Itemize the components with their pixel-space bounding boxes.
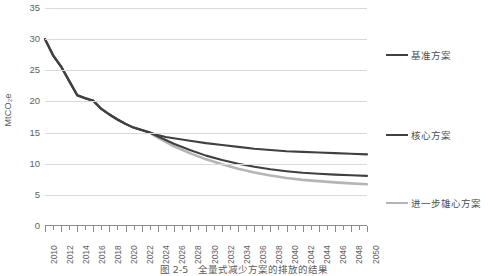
x-tick-mark bbox=[295, 226, 296, 230]
x-tick-mark bbox=[343, 226, 344, 230]
x-tick-mark bbox=[126, 226, 127, 232]
legend-label: 进一步雄心方案 bbox=[411, 196, 481, 210]
x-tick-mark bbox=[158, 226, 159, 232]
x-tick-mark bbox=[327, 226, 328, 230]
figure-caption: 图 2-5 全量式减少方案的排放的结果 bbox=[0, 262, 488, 276]
x-tick-mark bbox=[319, 226, 320, 232]
plot-area bbox=[45, 8, 367, 226]
legend-swatch-icon bbox=[386, 134, 408, 137]
chart-legend: 基准方案核心方案进一步雄心方案 bbox=[386, 0, 488, 230]
x-tick-mark bbox=[270, 226, 271, 232]
x-tick-mark bbox=[134, 226, 135, 230]
y-tick-label: 25 bbox=[14, 66, 40, 76]
x-tick-mark bbox=[246, 226, 247, 230]
x-tick-mark bbox=[367, 226, 368, 232]
x-tick-mark bbox=[93, 226, 94, 232]
x-tick-mark bbox=[61, 226, 62, 232]
x-tick-mark bbox=[190, 226, 191, 232]
series-line bbox=[45, 39, 367, 184]
x-tick-mark bbox=[238, 226, 239, 232]
x-tick-mark bbox=[254, 226, 255, 232]
legend-label: 核心方案 bbox=[411, 128, 451, 142]
y-tick-label: 30 bbox=[14, 34, 40, 44]
x-tick-mark bbox=[77, 226, 78, 232]
y-tick-label: 0 bbox=[14, 221, 40, 231]
legend-item[interactable]: 基准方案 bbox=[386, 48, 451, 62]
gridline bbox=[45, 101, 367, 102]
x-tick-mark bbox=[303, 226, 304, 232]
x-axis-tick-marks bbox=[45, 226, 367, 233]
x-tick-mark bbox=[222, 226, 223, 232]
x-tick-mark bbox=[287, 226, 288, 232]
series-line bbox=[45, 39, 367, 154]
gridline bbox=[45, 8, 367, 9]
x-tick-mark bbox=[45, 226, 46, 232]
x-tick-mark bbox=[311, 226, 312, 230]
y-tick-label: 5 bbox=[14, 190, 40, 200]
x-tick-mark bbox=[230, 226, 231, 230]
y-tick-label: 10 bbox=[14, 159, 40, 169]
legend-label: 基准方案 bbox=[411, 48, 451, 62]
series-lines bbox=[45, 8, 367, 226]
x-tick-mark bbox=[150, 226, 151, 230]
x-tick-mark bbox=[351, 226, 352, 232]
x-tick-mark bbox=[278, 226, 279, 230]
x-tick-mark bbox=[101, 226, 102, 230]
y-tick-label: 35 bbox=[14, 3, 40, 13]
x-tick-mark bbox=[214, 226, 215, 230]
x-tick-mark bbox=[335, 226, 336, 232]
x-tick-mark bbox=[109, 226, 110, 232]
gridline bbox=[45, 39, 367, 40]
y-axis-tick-labels: 05101520253035 bbox=[12, 0, 40, 272]
x-tick-mark bbox=[174, 226, 175, 232]
x-tick-mark bbox=[198, 226, 199, 230]
x-tick-mark bbox=[206, 226, 207, 232]
x-tick-mark bbox=[85, 226, 86, 230]
y-tick-label: 15 bbox=[14, 128, 40, 138]
legend-swatch-icon bbox=[386, 54, 408, 57]
x-tick-mark bbox=[359, 226, 360, 230]
gridline bbox=[45, 164, 367, 165]
x-tick-mark bbox=[262, 226, 263, 230]
x-tick-mark bbox=[53, 226, 54, 230]
gridline bbox=[45, 70, 367, 71]
x-tick-mark bbox=[142, 226, 143, 232]
x-tick-mark bbox=[166, 226, 167, 230]
gridline bbox=[45, 195, 367, 196]
x-tick-mark bbox=[69, 226, 70, 230]
legend-item[interactable]: 核心方案 bbox=[386, 128, 451, 142]
x-tick-mark bbox=[182, 226, 183, 230]
gridline bbox=[45, 133, 367, 134]
legend-item[interactable]: 进一步雄心方案 bbox=[386, 196, 481, 210]
legend-swatch-icon bbox=[386, 202, 408, 205]
x-tick-mark bbox=[117, 226, 118, 230]
y-tick-label: 20 bbox=[14, 97, 40, 107]
series-line bbox=[45, 39, 367, 176]
